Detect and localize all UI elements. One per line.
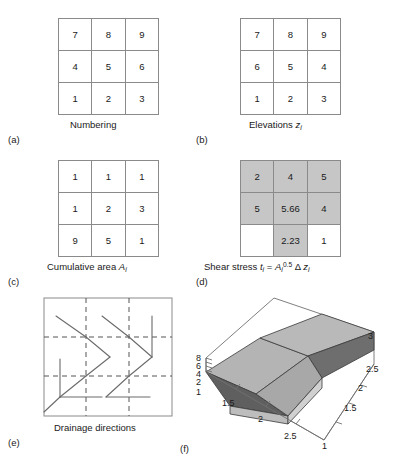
caption-numbering: Numbering [70,119,116,130]
grid-cell: 1 [126,161,159,193]
panel-label-d: (d) [196,276,208,287]
grid-numbering: 7 8 9 4 5 6 1 2 3 [58,18,159,115]
grid-cell: 1 [92,161,125,193]
grid-cell: 2 [92,193,125,225]
grid-cell: 1 [126,225,159,257]
y-tick-label: 1.5 [344,403,357,413]
grid-cell: 5 [92,51,125,83]
grid-cell: 9 [126,19,159,51]
panel-label-f: (f) [180,443,189,454]
grid-cell: 1 [241,83,274,115]
grid-cell: 8 [92,19,125,51]
z-tick-label: 1 [196,387,201,397]
grid-cell: 5 [308,161,341,193]
z-tick-label: 2 [196,377,201,387]
drainage-directions-plot [40,296,180,420]
grid-elevations: 7 8 9 6 5 4 1 2 3 [240,18,341,115]
caption-shear-stress: Shear stress ti = Ai0.5 Δ zi [204,261,310,273]
drainage-direction-vectors [44,316,152,412]
grid-cell: 7 [59,19,92,51]
panel-label-e: (e) [8,437,20,448]
grid-cell: 5 [274,51,307,83]
grid-cell: 2.23 [274,225,307,257]
grid-cell: 4 [308,193,341,225]
grid-cell: 2 [274,83,307,115]
caption-text: Shear stress [204,261,260,272]
x-tick-label: 2 [258,414,263,424]
grid-cell: 5 [241,193,274,225]
caption-cumulative-area: Cumulative area Ai [47,261,127,273]
x-tick-label: 2.5 [284,431,297,441]
drainage-plot-border [44,298,172,416]
grid-cell: 1 [59,83,92,115]
grid-cell: 3 [126,83,159,115]
caption-subscript: i [125,266,127,273]
grid-cell: 4 [308,51,341,83]
grid-cell: 6 [241,51,274,83]
grid-cell: 4 [59,51,92,83]
grid-cell: 5 [92,225,125,257]
x-origin-label: 1 [322,441,327,451]
grid-cell: 3 [308,83,341,115]
grid-cell: 1 [308,225,341,257]
drainage-dashed-grid [44,298,172,416]
grid-cell: 2 [241,161,274,193]
caption-subscript: i [300,124,302,131]
surface-3d-plot: 8 6 4 2 1 1.5 2 2.5 1 3 [196,292,396,452]
grid-cumulative-area: 1 1 1 1 2 3 9 5 1 [58,160,159,257]
grid-cell: 7 [241,19,274,51]
grid-cell: 4 [274,161,307,193]
caption-elevations: Elevations zi [249,119,302,131]
grid-cell: 9 [59,225,92,257]
panel-label-c: (c) [8,276,19,287]
grid-cell [241,225,274,257]
y-tick-label: 2.5 [366,364,379,374]
panel-label-b: (b) [196,134,208,145]
grid-cell: 1 [59,161,92,193]
grid-cell: 9 [308,19,341,51]
grid-cell: 8 [274,19,307,51]
grid-cell: 3 [126,193,159,225]
caption-drainage-directions: Drainage directions [54,422,136,433]
y-tick-label: 3 [368,331,373,341]
x-tick-label: 1.5 [222,398,235,408]
panel-label-a: (a) [8,134,20,145]
grid-cell: 1 [59,193,92,225]
caption-text: Elevations [249,119,295,130]
grid-shear-stress: 2 4 5 5 5.66 4 2.23 1 [240,160,341,257]
grid-cell: 6 [126,51,159,83]
grid-cell: 5.66 [274,193,307,225]
y-tick-label: 2 [358,383,363,393]
caption-text: Cumulative area [47,261,119,272]
grid-cell: 2 [92,83,125,115]
y-axis [324,364,374,440]
figure-panel-group: 7 8 9 4 5 6 1 2 3 Numbering (a) 7 8 9 6 … [0,0,404,467]
